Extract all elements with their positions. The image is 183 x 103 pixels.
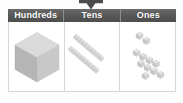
column-header-ones: Ones xyxy=(121,9,176,22)
cell-hundreds[interactable] xyxy=(9,22,64,91)
column-header-hundreds: Hundreds xyxy=(8,9,63,22)
cell-ones[interactable] xyxy=(119,22,175,91)
cell-tens[interactable] xyxy=(64,22,120,91)
base-ten-cube-icon xyxy=(12,26,62,88)
place-value-chart-widget: Hundreds Tens Ones xyxy=(0,0,183,103)
column-header-tens: Tens xyxy=(64,9,119,22)
place-value-table: Hundreds Tens Ones xyxy=(8,9,176,92)
table-body-row xyxy=(8,22,176,92)
base-ten-units-icon xyxy=(123,25,175,89)
table-header-row: Hundreds Tens Ones xyxy=(8,9,176,22)
base-ten-rods-icon xyxy=(67,26,119,88)
